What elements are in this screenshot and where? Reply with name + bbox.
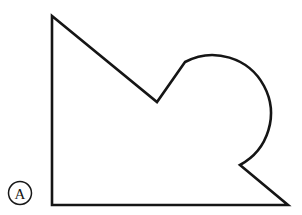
- figure-background: [0, 0, 302, 215]
- figure-drawing: A: [0, 0, 302, 215]
- figure-canvas: A: [0, 0, 302, 215]
- label-letter: A: [15, 186, 26, 202]
